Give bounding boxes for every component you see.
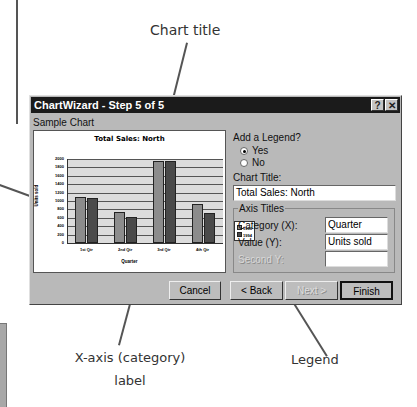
- plot-area: [67, 159, 223, 244]
- title-bar: ChartWizard - Step 5 of 5 ? ✕: [31, 97, 400, 113]
- bar-1993-0: [75, 197, 86, 243]
- y-tick-label: 1600: [46, 173, 64, 178]
- chart-title-input[interactable]: Total Sales: North: [233, 185, 396, 201]
- y-tick-label: 1200: [46, 190, 64, 195]
- y-tick-label: 400: [46, 223, 64, 228]
- bar-1994-1: [126, 217, 137, 243]
- partial-window-edge: [0, 323, 7, 407]
- gridline: [68, 167, 223, 168]
- bar-1994-3: [204, 213, 215, 243]
- y-tick-label: 800: [46, 206, 64, 211]
- y-tick-label: 0: [46, 240, 64, 245]
- next-button[interactable]: Next >: [285, 281, 338, 300]
- back-button[interactable]: < Back: [230, 281, 283, 300]
- y-axis-title: Units sold: [34, 185, 39, 207]
- sample-chart: Total Sales: North Units sold 2000180016…: [33, 130, 226, 273]
- legend-no-label[interactable]: No: [252, 157, 265, 168]
- x-axis-title: Quarter: [34, 259, 225, 264]
- gridline: [68, 193, 223, 194]
- callout-legend: Legend: [285, 352, 345, 367]
- sample-chart-label: Sample Chart: [33, 117, 94, 128]
- value-y-input[interactable]: Units sold: [325, 234, 388, 250]
- dialog-title: ChartWizard - Step 5 of 5: [34, 99, 164, 111]
- x-tick-label: 1st Qtr: [71, 247, 101, 252]
- y-tick-label: 1800: [46, 164, 64, 169]
- x-tick-label: 4th Qtr: [188, 247, 218, 252]
- category-x-input[interactable]: Quarter: [325, 217, 388, 233]
- callout-x-axis-line2: label: [60, 373, 200, 388]
- y-tick-label: 2000: [46, 156, 64, 161]
- add-legend-label: Add a Legend?: [233, 132, 301, 143]
- second-y-input[interactable]: [325, 251, 388, 267]
- chart-title-label: Chart Title:: [233, 172, 281, 183]
- y-tick-label: 1000: [46, 198, 64, 203]
- legend-yes-radio[interactable]: [240, 147, 248, 155]
- cancel-button[interactable]: Cancel: [169, 281, 221, 300]
- axis-titles-label: Axis Titles: [238, 203, 285, 214]
- legend-yes-label[interactable]: Yes: [252, 145, 268, 156]
- close-button[interactable]: ✕: [385, 99, 398, 111]
- x-tick-label: 3rd Qtr: [149, 247, 179, 252]
- gridline: [68, 176, 223, 177]
- y-tick-label: 200: [46, 232, 64, 237]
- bar-1993-3: [192, 204, 203, 243]
- callout-x-axis-line1: X-axis (category): [60, 350, 200, 365]
- callout-leader-line-left: [16, 0, 18, 124]
- bar-1993-2: [153, 161, 164, 243]
- category-x-label: Category (X):: [238, 220, 297, 231]
- finish-button[interactable]: Finish: [340, 281, 393, 300]
- second-y-label: Second Y:: [238, 254, 283, 265]
- callout-chart-title: Chart title: [150, 22, 220, 38]
- gridline: [68, 159, 223, 160]
- y-tick-label: 1400: [46, 181, 64, 186]
- gridline: [68, 184, 223, 185]
- bar-1994-2: [165, 161, 176, 243]
- legend-no-radio[interactable]: [240, 159, 248, 167]
- chart-title: Total Sales: North: [34, 135, 225, 143]
- chartwizard-dialog: ChartWizard - Step 5 of 5 ? ✕ Sample Cha…: [29, 95, 402, 305]
- bar-1993-1: [114, 212, 125, 243]
- bar-1994-0: [87, 198, 98, 243]
- y-tick-label: 600: [46, 215, 64, 220]
- x-tick-label: 2nd Qtr: [110, 247, 140, 252]
- help-button[interactable]: ?: [371, 99, 384, 111]
- callout-x-axis-label: X-axis (category) label: [60, 350, 200, 388]
- value-y-label: Value (Y):: [238, 237, 282, 248]
